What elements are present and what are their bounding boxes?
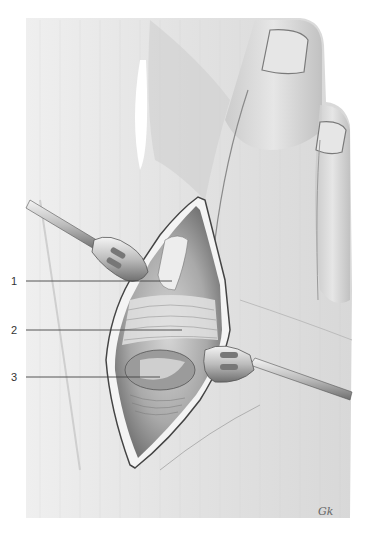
surgical-illustration xyxy=(0,0,369,536)
label-3: 3 xyxy=(11,372,17,383)
artist-signature: Gk xyxy=(318,505,333,518)
label-2: 2 xyxy=(11,325,17,336)
label-1: 1 xyxy=(11,276,17,287)
